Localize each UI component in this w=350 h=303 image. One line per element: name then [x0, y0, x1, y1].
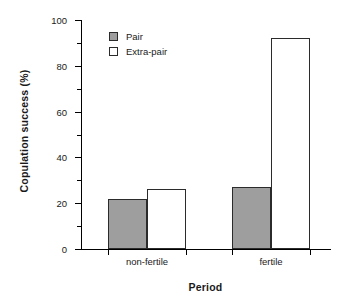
bar-fertile-extra-pair: [271, 38, 310, 249]
bar-non-fertile-pair: [108, 199, 147, 249]
y-tick-80: 80: [75, 66, 81, 67]
y-axis-title: Copulation success (%): [18, 41, 30, 221]
y-tick-label-20: 20: [56, 198, 67, 209]
x-tick-non-fertile-1: [186, 249, 187, 255]
y-tick-minor-10: [77, 226, 81, 227]
legend-swatch-extra-pair: [109, 47, 118, 56]
y-tick-0: 0: [75, 249, 81, 250]
y-tick-minor-30: [77, 180, 81, 181]
y-tick-minor-50: [77, 135, 81, 136]
chart-figure: Copulation success (%) Period 0204060801…: [0, 0, 350, 303]
y-tick-label-80: 80: [56, 60, 67, 71]
legend-item-extra-pair: Extra-pair: [109, 45, 167, 58]
y-tick-label-100: 100: [51, 15, 67, 26]
legend-label-pair: Pair: [126, 31, 143, 42]
x-tick-fertile-0: [232, 249, 233, 255]
x-axis-line: [81, 249, 331, 250]
x-tick-non-fertile-0: [108, 249, 109, 255]
bar-non-fertile-extra-pair: [147, 189, 186, 249]
y-tick-60: 60: [75, 112, 81, 113]
x-axis-title: Period: [81, 281, 330, 293]
legend-label-extra-pair: Extra-pair: [126, 46, 167, 57]
legend-item-pair: Pair: [109, 30, 167, 43]
y-tick-label-40: 40: [56, 152, 67, 163]
y-tick-minor-90: [77, 43, 81, 44]
y-tick-label-60: 60: [56, 106, 67, 117]
y-tick-label-0: 0: [62, 244, 67, 255]
y-axis-line: [81, 20, 82, 250]
chart-legend: Pair Extra-pair: [109, 30, 167, 60]
x-tick-label-fertile: fertile: [259, 256, 282, 267]
y-tick-minor-70: [77, 89, 81, 90]
legend-swatch-pair: [109, 32, 118, 41]
x-tick-label-non-fertile: non-fertile: [126, 256, 168, 267]
y-tick-100: 100: [75, 20, 81, 21]
x-tick-fertile-1: [310, 249, 311, 255]
y-tick-40: 40: [75, 157, 81, 158]
y-tick-20: 20: [75, 203, 81, 204]
bar-fertile-pair: [232, 187, 271, 249]
